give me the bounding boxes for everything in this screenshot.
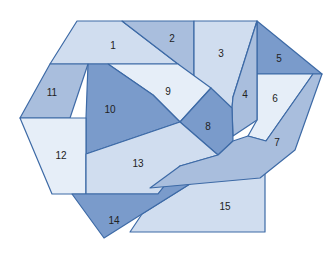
piece-5-shape	[257, 21, 322, 74]
piece-1-label: 1	[110, 40, 116, 51]
piece-7-label: 7	[274, 137, 280, 148]
piece-14-label: 14	[108, 215, 120, 226]
piece-5-label: 5	[276, 53, 282, 64]
piece-12-shape	[20, 118, 86, 194]
piece-4-label: 4	[242, 89, 248, 100]
piece-13-label: 13	[132, 158, 144, 169]
piece-12-label: 12	[55, 150, 67, 161]
piece-5	[257, 21, 322, 74]
piece-2-label: 2	[169, 33, 175, 44]
piece-10-label: 10	[104, 104, 116, 115]
piece-11-label: 11	[47, 87, 58, 98]
piece-15-label: 15	[219, 201, 231, 212]
dissection-diagram: 123456789101112131415	[0, 0, 336, 268]
piece-12	[20, 118, 86, 194]
piece-8-label: 8	[205, 121, 211, 132]
diagram-canvas: 123456789101112131415	[0, 0, 336, 268]
piece-6-label: 6	[272, 93, 278, 104]
piece-3-label: 3	[218, 48, 224, 59]
piece-9-label: 9	[165, 86, 171, 97]
